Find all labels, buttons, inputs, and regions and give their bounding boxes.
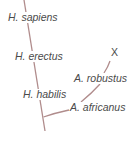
taxon-label-a-africanus: A. africanus	[69, 102, 126, 113]
taxon-label-h-erectus: H. erectus	[14, 51, 64, 62]
taxon-label-h-sapiens: H. sapiens	[7, 12, 59, 23]
taxon-label-h-habilis: H. habilis	[22, 89, 67, 100]
robustus-branch	[81, 84, 100, 102]
australopithecus-branch	[44, 110, 70, 117]
extinction-marker: X	[110, 47, 119, 58]
taxon-label-a-robustus: A. robustus	[73, 73, 128, 84]
